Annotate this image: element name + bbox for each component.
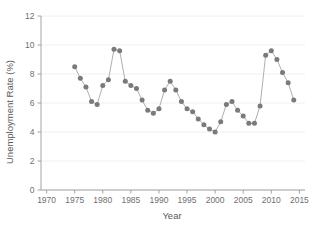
data-point: [274, 57, 279, 62]
data-point: [78, 76, 83, 81]
y-tick-label-4: 4: [30, 127, 35, 137]
data-point: [263, 53, 268, 58]
data-point: [196, 116, 201, 121]
data-point: [162, 87, 167, 92]
data-point: [235, 108, 240, 113]
series-line-group: [75, 49, 294, 132]
data-point: [95, 102, 100, 107]
x-tick-label-1970: 1970: [37, 195, 56, 205]
x-tick-label-1990: 1990: [149, 195, 168, 205]
x-tick-label-1995: 1995: [178, 195, 197, 205]
data-point: [224, 102, 229, 107]
x-axis-title: Year: [162, 210, 181, 221]
y-tick-label-2: 2: [30, 156, 35, 166]
data-point: [201, 122, 206, 127]
y-axis-ticks: 024681012: [25, 11, 41, 195]
data-point: [151, 111, 156, 116]
y-axis-title: Unemployment Rate (%): [4, 60, 15, 164]
y-tick-label-0: 0: [30, 185, 35, 195]
x-tick-label-2000: 2000: [206, 195, 225, 205]
data-point: [117, 48, 122, 53]
data-point: [213, 130, 218, 135]
unemployment-rate-line-chart: 024681012 197019751980198519901995200020…: [0, 0, 312, 226]
data-point: [168, 79, 173, 84]
data-point: [258, 103, 263, 108]
data-point: [100, 83, 105, 88]
data-point: [89, 99, 94, 104]
data-point: [83, 85, 88, 90]
data-point: [140, 98, 145, 103]
data-point: [286, 80, 291, 85]
x-tick-label-2005: 2005: [234, 195, 253, 205]
x-tick-label-1980: 1980: [93, 195, 112, 205]
y-tick-label-8: 8: [30, 69, 35, 79]
data-point: [112, 47, 117, 52]
data-point: [207, 127, 212, 132]
data-point: [134, 86, 139, 91]
x-tick-label-2010: 2010: [262, 195, 281, 205]
x-axis-ticks: 1970197519801985199019952000200520102015: [37, 190, 309, 205]
data-point: [229, 99, 234, 104]
data-point: [185, 106, 190, 111]
y-tick-label-10: 10: [25, 40, 35, 50]
x-tick-label-2015: 2015: [290, 195, 309, 205]
y-tick-label-6: 6: [30, 98, 35, 108]
data-point: [106, 77, 111, 82]
data-point: [72, 64, 77, 69]
y-tick-label-12: 12: [25, 11, 35, 21]
data-point: [179, 99, 184, 104]
data-point: [145, 108, 150, 113]
data-point: [280, 70, 285, 75]
data-point: [173, 87, 178, 92]
series-line: [75, 49, 294, 132]
gridlines-group: [41, 16, 305, 190]
data-point: [123, 79, 128, 84]
data-point: [291, 98, 296, 103]
data-point: [156, 106, 161, 111]
x-tick-label-1975: 1975: [65, 195, 84, 205]
x-tick-label-1985: 1985: [121, 195, 140, 205]
data-point: [190, 109, 195, 114]
data-point: [218, 119, 223, 124]
data-point: [269, 48, 274, 53]
series-markers-group: [72, 47, 296, 135]
data-point: [128, 83, 133, 88]
data-point: [246, 121, 251, 126]
data-point: [241, 114, 246, 119]
data-point: [252, 121, 257, 126]
chart-page: 024681012 197019751980198519901995200020…: [0, 0, 312, 226]
